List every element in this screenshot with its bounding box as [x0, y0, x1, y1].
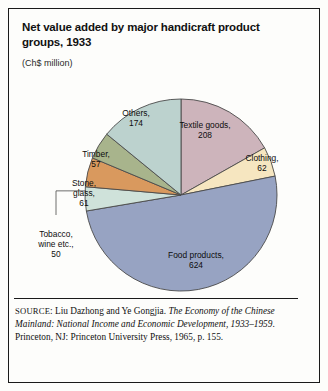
source-prefix: SOURCE: [15, 306, 50, 316]
source-divider: [14, 298, 298, 299]
source-citation: SOURCE: Liu Dazhong and Ye Gongjia. The …: [15, 305, 299, 345]
figure-pie-chart: Net value added by major handicraft prod…: [0, 0, 328, 391]
pie-slice-label: Tobacco,wine etc.,50: [37, 229, 73, 259]
source-authors: : Liu Dazhong and Ye Gongjia.: [50, 306, 168, 316]
